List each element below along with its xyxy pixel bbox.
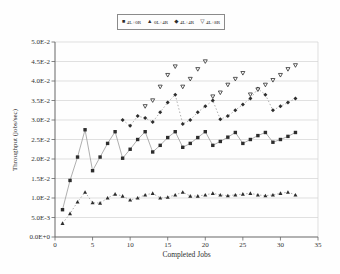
y-tick-label: 0.0E+0 [30, 233, 51, 241]
x-tick-label: 5 [91, 241, 95, 249]
y-tick-label: 5.0E-3 [31, 214, 50, 222]
x-tick-label: 20 [202, 241, 210, 249]
y-tick-label: 4.0E-2 [31, 77, 50, 85]
x-tick-label: 30 [277, 241, 285, 249]
series-4l-0r [61, 128, 297, 211]
x-tick-label: 25 [239, 241, 247, 249]
y-tick-label: 5.0E-2 [31, 38, 50, 46]
y-tick-label: 1.0E-2 [31, 194, 50, 202]
series-4l-8r [143, 60, 297, 108]
gridlines [55, 42, 318, 237]
series-4l-4r [121, 87, 298, 128]
y-axis-title: Throughput (jobs/sec) [11, 109, 19, 171]
x-axis-title: Completed Jobs [55, 250, 318, 259]
chart-plot-area: 0.0E+05.0E-31.0E-21.5E-22.0E-22.5E-23.0E… [0, 0, 340, 274]
y-tick-label: 4.5E-2 [31, 58, 50, 66]
y-tick-label: 3.0E-2 [31, 116, 50, 124]
chart-figure: ■4L+0R▲0L+4R◆4L+4R▽4L+8R 0.0E+05.0E-31.0… [0, 0, 340, 274]
y-tick-label: 2.0E-2 [31, 155, 50, 163]
y-axis: 0.0E+05.0E-31.0E-21.5E-22.0E-22.5E-23.0E… [30, 38, 55, 241]
x-tick-label: 35 [315, 241, 323, 249]
x-tick-label: 0 [53, 241, 57, 249]
y-tick-label: 1.5E-2 [31, 175, 50, 183]
y-tick-label: 2.5E-2 [31, 136, 50, 144]
x-tick-label: 15 [164, 241, 172, 249]
x-tick-label: 10 [127, 241, 135, 249]
x-axis: 05101520253035 [53, 237, 322, 249]
series-0l-4r [61, 190, 298, 225]
y-tick-label: 3.5E-2 [31, 97, 50, 105]
